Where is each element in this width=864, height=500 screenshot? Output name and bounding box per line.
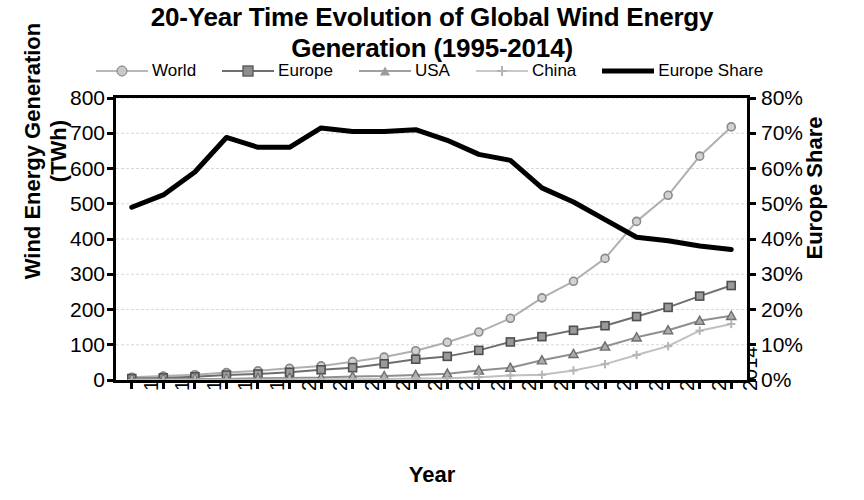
legend-label-usa: USA [415,61,450,81]
x-axis-title: Year [0,462,864,488]
y-axis-left-tick-label: 400 [47,227,105,251]
y-axis-left-tick-label: 700 [47,121,105,145]
y-axis-right-tick-label: 20% [761,298,821,322]
plot-area [113,95,750,383]
legend-swatch-europe [222,64,274,78]
chart-figure: 20-Year Time Evolution of Global Wind En… [0,0,864,500]
series-world [128,123,735,380]
y-axis-right-tick-label: 30% [761,262,821,286]
series-china [128,320,736,380]
chart-legend: World Europe USA China [96,60,796,82]
chart-title-line-2: Generation (1995-2014) [0,33,864,64]
y-axis-right-tick-label: 10% [761,333,821,357]
y-axis-left-tick-label: 600 [47,157,105,181]
y-axis-right-tick-label: 0% [761,368,821,392]
legend-swatch-usa [359,64,411,78]
series-europe-share [132,128,731,250]
series-europe [128,282,735,380]
legend-label-europe: Europe [278,61,333,81]
legend-item-china: China [476,61,576,81]
legend-swatch-world [96,64,148,78]
legend-label-world: World [152,61,196,81]
legend-label-china: China [532,61,576,81]
y-axis-left-tick-label: 0 [47,368,105,392]
legend-label-europe-share: Europe Share [658,61,763,81]
legend-swatch-europe-share [602,64,654,78]
legend-item-usa: USA [359,61,450,81]
y-axis-right-tick-label: 80% [761,86,821,110]
legend-swatch-china [476,64,528,78]
chart-title: 20-Year Time Evolution of Global Wind En… [0,2,864,63]
legend-item-europe-share: Europe Share [602,61,763,81]
y-axis-left-tick-label: 300 [47,262,105,286]
y-axis-title-left: Wind Energy Generation (TWh) [20,1,72,301]
y-axis-left-tick-label: 200 [47,298,105,322]
legend-item-world: World [96,61,196,81]
chart-title-line-1: 20-Year Time Evolution of Global Wind En… [151,2,714,32]
y-axis-right-tick-label: 70% [761,121,821,145]
legend-item-europe: Europe [222,61,333,81]
y-axis-right-tick-label: 40% [761,227,821,251]
y-axis-left-tick-label: 500 [47,192,105,216]
y-axis-right-tick-label: 60% [761,157,821,181]
y-axis-right-tick-label: 50% [761,192,821,216]
y-axis-left-tick-label: 100 [47,333,105,357]
y-axis-left-tick-label: 800 [47,86,105,110]
